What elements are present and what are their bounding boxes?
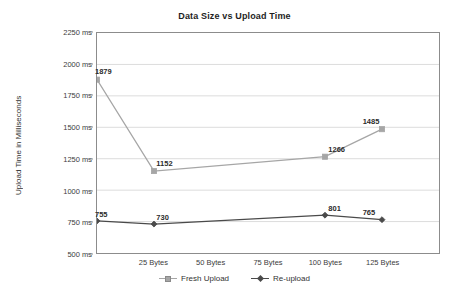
data-point-value-label: 1485 [363,117,380,126]
y-axis-tick-mark [88,95,93,96]
y-axis-tick-mark [88,190,93,191]
data-point-value-label: 1266 [328,145,345,154]
y-axis-tick-label: 1500 ms [38,123,92,132]
x-axis-tick-label: 50 Bytes [196,258,225,267]
chart-title: Data Size vs Upload Time [0,11,469,21]
y-axis-tick-mark [88,254,93,255]
data-point-value-label: 801 [328,204,341,213]
data-point-value-label: 1152 [156,159,172,168]
y-axis-tick-label: 500 ms [38,250,92,259]
chart-container: Data Size vs Upload Time Upload Time in … [0,0,469,300]
data-point-value-label: 1879 [95,67,112,76]
chart-legend: Fresh UploadRe-upload [0,274,469,283]
y-axis-tick-label: 750 ms [38,218,92,227]
legend-item[interactable]: Re-upload [251,274,310,283]
y-axis-tick-mark [88,127,93,128]
legend-item[interactable]: Fresh Upload [159,274,229,283]
data-point-marker [151,168,156,173]
x-axis-ticks: 25 Bytes50 Bytes75 Bytes100 Bytes125 Byt… [96,256,440,270]
series-line [97,215,382,224]
y-axis-tick-mark [88,32,93,33]
data-point-marker [97,218,100,224]
plot-area [96,32,440,254]
y-axis-tick-mark [88,158,93,159]
x-axis-tick-label: 75 Bytes [253,258,282,267]
legend-label: Fresh Upload [181,274,229,283]
y-axis-title: Upload Time in Milliseconds [12,60,26,230]
diamond-marker-icon [251,275,269,283]
data-point-marker [379,127,384,132]
data-point-value-label: 765 [363,208,376,217]
data-point-marker [97,77,100,82]
data-point-value-label: 730 [156,213,169,222]
y-axis-tick-label: 1250 ms [38,154,92,163]
x-axis-tick-label: 100 Bytes [309,258,342,267]
legend-label: Re-upload [273,274,310,283]
y-axis-tick-mark [88,63,93,64]
data-point-value-label: 755 [95,210,108,219]
data-point-marker [322,212,328,218]
x-axis-tick-label: 25 Bytes [139,258,168,267]
y-axis-tick-label: 2000 ms [38,59,92,68]
data-point-marker [322,154,327,159]
x-axis-tick-label: 125 Bytes [366,258,399,267]
plot-svg [97,33,439,253]
y-axis-tick-label: 1000 ms [38,186,92,195]
series-line [97,80,382,171]
y-axis-tick-label: 2250 ms [38,28,92,37]
y-axis-ticks: 2250 ms2000 ms1750 ms1500 ms1250 ms1000 … [30,32,92,254]
square-marker-icon [159,275,177,283]
y-axis-tick-label: 1750 ms [38,91,92,100]
y-axis-tick-mark [88,222,93,223]
